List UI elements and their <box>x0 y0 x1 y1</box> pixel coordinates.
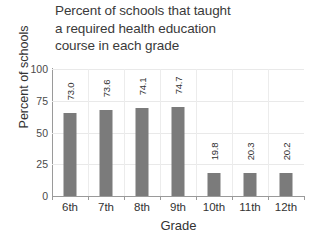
x-axis-tick-label: 10th <box>194 201 234 213</box>
x-axis-tick-mark <box>124 196 125 200</box>
bar-group: 20.2 <box>268 69 304 196</box>
bar-value-label: 73.0 <box>65 83 76 101</box>
x-axis-tick-label: 12th <box>266 201 306 213</box>
x-axis-tick-mark <box>304 196 305 200</box>
bar-chart-figure: Percent of schools that taught a require… <box>0 0 314 243</box>
y-axis-tick-label: 100 <box>22 63 48 75</box>
x-axis-tick-mark <box>52 196 53 200</box>
bar-group: 73.6 <box>88 69 124 196</box>
bar-value-label: 74.7 <box>173 77 184 95</box>
y-axis-tick-label: 50 <box>22 127 48 139</box>
bar <box>64 113 77 196</box>
bar-group: 74.7 <box>160 69 196 196</box>
x-axis-tick-label: 7th <box>86 201 126 213</box>
bar <box>136 108 149 196</box>
bar-value-label: 20.2 <box>281 143 292 161</box>
bar-group: 74.1 <box>124 69 160 196</box>
x-axis-tick-mark <box>88 196 89 200</box>
x-axis-tick-label: 9th <box>158 201 198 213</box>
chart-title: Percent of schools that taught a require… <box>55 2 305 55</box>
bar-group: 73.0 <box>52 69 88 196</box>
bar-value-label: 74.1 <box>137 77 148 95</box>
bar-group: 20.3 <box>232 69 268 196</box>
y-axis-tick-label: 75 <box>22 95 48 107</box>
x-axis-tick-label: 11th <box>230 201 270 213</box>
bar-group: 19.8 <box>196 69 232 196</box>
y-axis-title: Percent of schools <box>17 12 31 142</box>
bar <box>280 173 293 196</box>
x-axis-tick-label: 8th <box>122 201 162 213</box>
x-axis-tick-mark <box>232 196 233 200</box>
bar <box>172 107 185 196</box>
bar-value-label: 73.6 <box>101 79 112 97</box>
x-axis-tick-label: 6th <box>50 201 90 213</box>
bar <box>208 173 221 196</box>
bar <box>244 173 257 196</box>
x-axis-title: Grade <box>52 218 305 233</box>
x-axis-tick-mark <box>268 196 269 200</box>
bar <box>100 110 113 196</box>
bar-value-label: 20.3 <box>245 142 256 160</box>
y-axis-tick-label: 0 <box>22 190 48 202</box>
plot-area: 73.073.674.174.719.820.320.2 <box>52 69 304 196</box>
x-axis-tick-mark <box>196 196 197 200</box>
y-axis-tick-label: 25 <box>22 158 48 170</box>
x-axis-tick-mark <box>160 196 161 200</box>
bar-value-label: 19.8 <box>209 143 220 161</box>
